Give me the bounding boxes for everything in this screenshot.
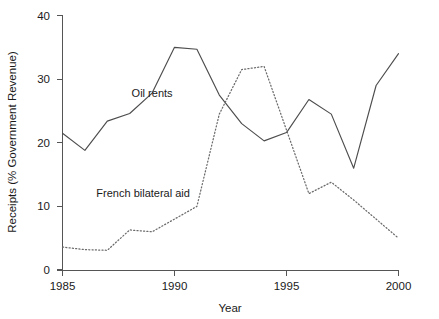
y-tick-label-30: 30 (37, 73, 50, 85)
x-axis-title: Year (218, 302, 241, 314)
x-tick-label-1985: 1985 (50, 280, 76, 292)
series-line-french-bilateral-aid (63, 66, 399, 250)
series-annotation-french-bilateral-aid: French bilateral aid (96, 187, 190, 199)
y-axis-ticks (57, 16, 63, 271)
y-tick-label-10: 10 (37, 200, 50, 212)
line-chart: 40 30 20 10 0 1985 1990 1995 2000 Year R… (0, 0, 439, 319)
y-tick-label-20: 20 (37, 137, 50, 149)
y-tick-label-0: 0 (44, 264, 50, 276)
y-axis-title: Receipts (% Government Revenue) (6, 51, 18, 233)
y-tick-label-40: 40 (37, 10, 50, 22)
series-annotation-oil-rents: Oil rents (132, 87, 173, 99)
x-tick-label-1990: 1990 (162, 280, 188, 292)
x-axis-ticks (63, 271, 399, 277)
x-tick-label-1995: 1995 (274, 280, 300, 292)
series-line-oil-rents (63, 47, 399, 168)
x-tick-label-2000: 2000 (386, 280, 412, 292)
chart-canvas: 40 30 20 10 0 1985 1990 1995 2000 Year R… (0, 0, 439, 319)
